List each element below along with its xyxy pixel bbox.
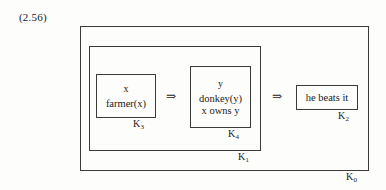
drs-box-label-k1: K1 [238, 152, 249, 162]
drs-box-label-k1-subscript: 1 [246, 156, 250, 164]
drs-box-k3-content: x farmer(x) [97, 75, 155, 117]
drs-box-k2-conditions: he beats it [306, 92, 349, 104]
drs-box-label-k3: K3 [133, 119, 144, 129]
drs-box-k2: he beats it [296, 85, 358, 110]
equation-number: (2.56) [19, 11, 47, 23]
drs-box-label-k2-letter: K [338, 110, 345, 121]
drs-box-k4: y donkey(y) x owns y [190, 66, 251, 128]
drs-box-label-k4-subscript: 4 [236, 133, 240, 141]
drs-condition: farmer(x) [106, 98, 146, 110]
drs-box-label-k2-subscript: 2 [346, 115, 350, 123]
drs-box-k3-referents: x [124, 83, 129, 94]
drs-condition: x owns y [199, 105, 242, 117]
drs-box-label-k0: K0 [346, 172, 357, 182]
double-arrow-icon-2: ⇒ [272, 90, 282, 102]
figure-canvas: (2.56) K0 K1 x farmer(x) K3 ⇒ y donkey(y… [0, 0, 386, 190]
drs-box-label-k0-letter: K [346, 171, 353, 182]
drs-box-label-k3-letter: K [133, 118, 140, 129]
drs-box-k3: x farmer(x) [96, 74, 156, 118]
drs-box-k4-referents: y [218, 78, 223, 89]
drs-box-k4-content: y donkey(y) x owns y [191, 67, 250, 127]
drs-box-k3-conditions: farmer(x) [106, 98, 146, 110]
drs-box-label-k4-letter: K [228, 128, 235, 139]
drs-box-label-k0-subscript: 0 [354, 176, 358, 184]
drs-box-k2-content: he beats it [297, 86, 357, 109]
drs-condition: donkey(y) [199, 93, 242, 105]
drs-box-label-k4: K4 [228, 129, 239, 139]
drs-box-k4-conditions: donkey(y) x owns y [199, 93, 242, 117]
double-arrow-icon-1: ⇒ [166, 90, 176, 102]
drs-box-label-k2: K2 [338, 111, 349, 121]
drs-condition: he beats it [306, 92, 349, 104]
drs-box-label-k3-subscript: 3 [141, 123, 145, 131]
drs-box-label-k1-letter: K [238, 151, 245, 162]
